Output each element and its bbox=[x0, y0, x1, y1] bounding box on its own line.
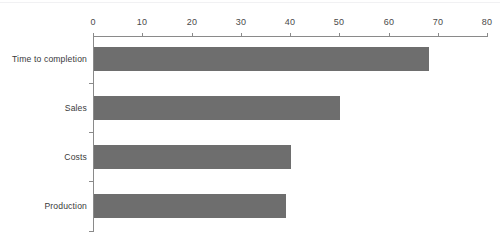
x-axis-tick-label: 80 bbox=[474, 17, 500, 28]
y-axis-category-label: Time to completion bbox=[0, 54, 87, 64]
y-axis-tick bbox=[89, 231, 93, 232]
bar-time-to-completion[interactable] bbox=[94, 47, 429, 71]
y-axis-category-label: Sales bbox=[0, 103, 87, 113]
y-axis-category-label: Production bbox=[0, 201, 87, 211]
y-axis-tick bbox=[89, 83, 93, 84]
x-axis-tick-label: 70 bbox=[425, 17, 451, 28]
y-axis-tick bbox=[89, 132, 93, 133]
x-axis-tick-label: 30 bbox=[228, 17, 254, 28]
y-axis-tick bbox=[89, 181, 93, 182]
x-axis-tick bbox=[142, 33, 143, 37]
plot-area: 0 10 20 30 40 50 60 70 80 Time to comple… bbox=[0, 0, 500, 240]
x-axis-tick bbox=[241, 33, 242, 37]
x-axis-tick-label: 60 bbox=[376, 17, 402, 28]
x-axis-tick bbox=[487, 33, 488, 37]
y-axis-category-label: Costs bbox=[0, 152, 87, 162]
x-axis-tick-label: 50 bbox=[326, 17, 352, 28]
x-axis-tick-label: 10 bbox=[129, 17, 155, 28]
bar-sales[interactable] bbox=[94, 96, 340, 120]
x-axis-tick bbox=[290, 33, 291, 37]
x-axis-tick bbox=[192, 33, 193, 37]
x-axis-tick-label: 40 bbox=[277, 17, 303, 28]
bar-costs[interactable] bbox=[94, 145, 291, 169]
x-axis-tick-label: 20 bbox=[179, 17, 205, 28]
x-axis-tick bbox=[339, 33, 340, 37]
bar-chart: 0 10 20 30 40 50 60 70 80 Time to comple… bbox=[0, 0, 500, 240]
x-axis-tick bbox=[389, 33, 390, 37]
x-axis-tick bbox=[438, 33, 439, 37]
bar-production[interactable] bbox=[94, 194, 286, 218]
x-axis-tick-label: 0 bbox=[80, 17, 106, 28]
